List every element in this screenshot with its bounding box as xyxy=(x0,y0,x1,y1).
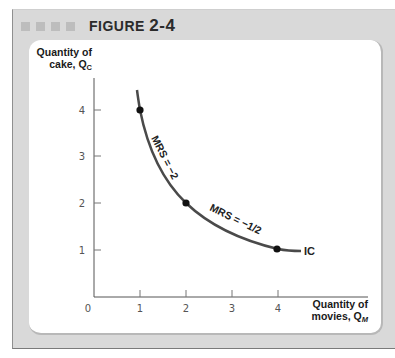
mrs-label-2: MRS = −1/2 xyxy=(208,201,264,236)
ic-label: IC xyxy=(304,245,315,257)
point-2-2 xyxy=(182,199,189,206)
point-4-1 xyxy=(273,245,280,252)
x-tick-1: 1 xyxy=(137,303,143,314)
x-tick-4: 4 xyxy=(275,303,281,314)
y-label-subscript: C xyxy=(87,63,92,72)
indifference-curve xyxy=(137,90,301,251)
origin-label: 0 xyxy=(85,303,91,314)
y-tick-2: 2 xyxy=(79,198,85,209)
y-ticks xyxy=(94,110,101,250)
y-tick-4: 4 xyxy=(79,105,85,116)
y-label-line2: cake, Q xyxy=(49,58,86,70)
x-axis-label: Quantity of movies, QM xyxy=(300,298,368,326)
y-tick-1: 1 xyxy=(79,245,85,256)
x-label-subscript: M xyxy=(362,315,368,324)
x-tick-2: 2 xyxy=(183,303,189,314)
y-tick-3: 3 xyxy=(79,151,85,162)
tick-labels: 4 3 2 1 1 2 3 4 0 xyxy=(79,105,282,314)
x-label-line1: Quantity of xyxy=(300,298,368,310)
x-tick-3: 3 xyxy=(229,303,235,314)
point-1-4 xyxy=(136,106,143,113)
x-ticks xyxy=(140,290,278,297)
y-label-line1: Quantity of xyxy=(22,46,92,58)
y-axis-label: Quantity of cake, QC xyxy=(22,46,92,74)
x-label-line2: movies, Q xyxy=(312,310,362,322)
